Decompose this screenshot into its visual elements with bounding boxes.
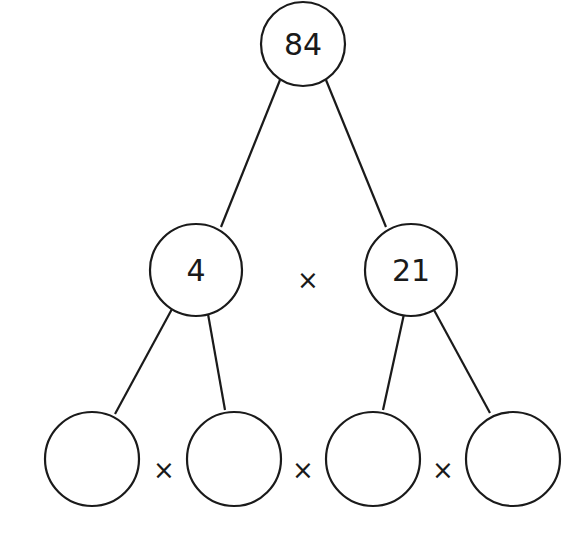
level2-node-4[interactable] [466, 412, 560, 506]
multiply-sign-level2-2: × [292, 455, 314, 485]
factor-tree-svg: 84 4 21 × [0, 0, 585, 547]
tree-edge [115, 309, 172, 414]
level2-node-2[interactable] [187, 412, 281, 506]
level1-node-left-value: 4 [186, 253, 205, 288]
root-node: 84 [261, 2, 345, 86]
tree-edge [326, 80, 386, 227]
root-node-value: 84 [284, 27, 322, 62]
tree-nodes: 84 4 21 × [45, 2, 560, 506]
level2-node-3[interactable] [326, 412, 420, 506]
factor-tree-diagram: 84 4 21 × [0, 0, 585, 547]
level1-node-left: 4 [150, 224, 242, 316]
level1-node-right-value: 21 [392, 253, 430, 288]
tree-edge [383, 314, 404, 410]
multiply-sign-level1: × [297, 265, 319, 295]
tree-edge [221, 80, 280, 227]
multiply-sign-level2-1: × [153, 455, 175, 485]
level1-node-right: 21 [365, 224, 457, 316]
level2-node-1[interactable] [45, 412, 139, 506]
tree-edge [208, 314, 225, 410]
multiply-sign-level2-3: × [432, 455, 454, 485]
tree-edge [434, 310, 490, 413]
